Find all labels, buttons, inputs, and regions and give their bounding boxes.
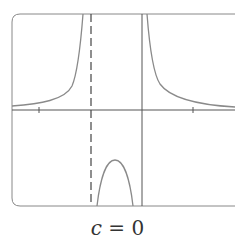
curve-middle-branch xyxy=(97,160,133,206)
caption-equals: = xyxy=(102,216,131,235)
curve-left-branch xyxy=(12,14,83,106)
curve-right-branch xyxy=(147,14,235,107)
caption-variable: c xyxy=(91,216,102,235)
caption-value: 0 xyxy=(131,216,144,235)
chart-caption: c = 0 xyxy=(0,216,235,235)
function-graph xyxy=(0,0,235,235)
